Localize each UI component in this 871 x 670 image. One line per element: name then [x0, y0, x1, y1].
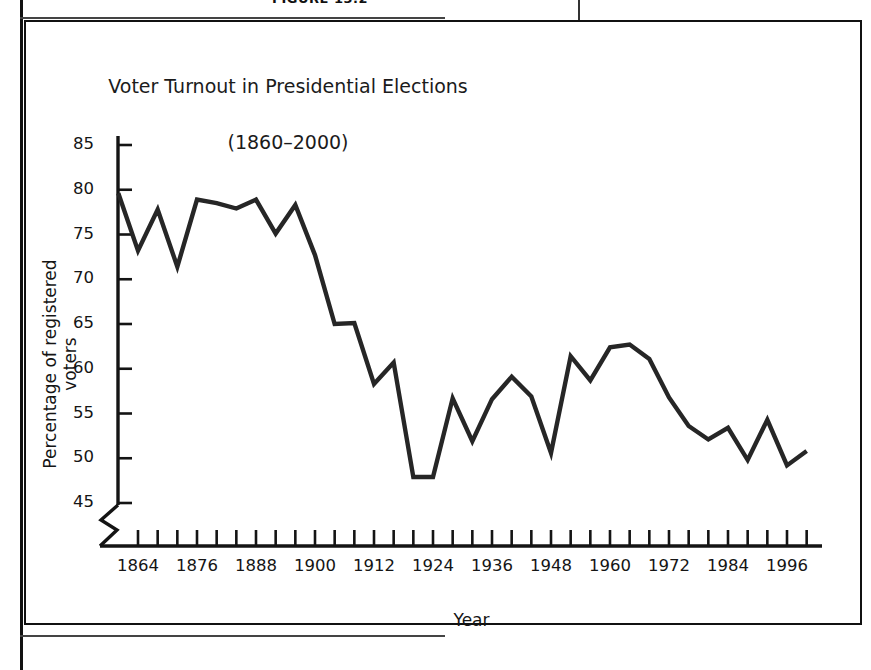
- x-axis-title: Year: [26, 610, 871, 630]
- x-axis-tick-label: 1924: [403, 556, 463, 575]
- y-axis-tick-label: 80: [54, 179, 94, 198]
- x-axis-tick-label: 1888: [226, 556, 286, 575]
- x-axis-tick-label: 1948: [521, 556, 581, 575]
- page-margin-tick: [578, 0, 580, 20]
- y-axis-tick-label: 45: [54, 492, 94, 511]
- x-axis-tick-label: 1960: [580, 556, 640, 575]
- x-axis-tick-label: 1936: [462, 556, 522, 575]
- chart-title: Voter Turnout in Presidential Elections …: [78, 44, 498, 184]
- x-axis-ticks: [138, 530, 807, 546]
- x-axis-tick-label: 1984: [698, 556, 758, 575]
- figure-container: Voter Turnout in Presidential Elections …: [24, 20, 862, 625]
- chart-title-line-2: (1860–2000): [78, 128, 498, 156]
- x-axis-tick-label: 1876: [167, 556, 227, 575]
- x-axis-tick-label: 1912: [344, 556, 404, 575]
- x-axis-tick-label: 1972: [639, 556, 699, 575]
- page-frame-left-rule: [20, 0, 23, 670]
- y-axis-title: Percentage of registered voters: [40, 244, 80, 484]
- axis-break-zigzag: [100, 505, 118, 546]
- chart-axes: [100, 136, 822, 546]
- x-axis-title-text: Year: [454, 610, 490, 630]
- y-axis-tick-label: 75: [54, 224, 94, 243]
- x-axis-tick-label: 1900: [285, 556, 345, 575]
- page-frame-top-rule: [20, 17, 445, 19]
- turnout-data-line: [118, 193, 806, 477]
- page-frame-bottom-rule: [20, 635, 445, 637]
- x-axis-tick-label: 1864: [108, 556, 168, 575]
- y-axis-ticks: [118, 145, 132, 503]
- figure-number-heading: FIGURE 13.2: [200, 0, 440, 6]
- y-axis-tick-label: 85: [54, 134, 94, 153]
- x-axis-tick-label: 1996: [757, 556, 817, 575]
- chart-title-line-1: Voter Turnout in Presidential Elections: [78, 72, 498, 100]
